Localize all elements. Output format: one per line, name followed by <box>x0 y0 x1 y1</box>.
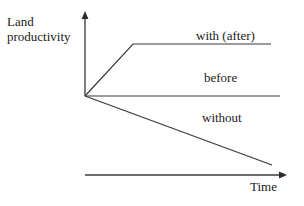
x-axis <box>85 172 287 179</box>
land-productivity-diagram: Landproductivity with (after) before wit… <box>0 0 304 206</box>
y-axis-label-line1: Land <box>7 14 34 29</box>
curve-label-with-after: with (after) <box>196 28 255 43</box>
x-axis-label: Time <box>250 179 277 194</box>
y-axis-arrowhead <box>82 11 89 19</box>
curve-label-before: before <box>204 70 237 85</box>
y-axis <box>82 11 89 96</box>
y-axis-label: Landproductivity <box>7 14 71 44</box>
x-axis-arrowhead <box>279 172 287 179</box>
y-axis-label-line2: productivity <box>7 29 71 44</box>
curve-without <box>85 96 272 165</box>
curve-label-without: without <box>202 110 242 125</box>
curve-with-after <box>85 44 271 96</box>
